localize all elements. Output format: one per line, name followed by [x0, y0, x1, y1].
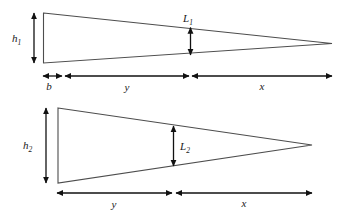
lower-x-label: x	[241, 197, 247, 209]
h1-label: h1	[12, 32, 21, 47]
b-label: b	[46, 80, 52, 92]
figure-container: h1 L1 b y x h2	[0, 0, 342, 215]
lower-diagram: h2 L2 y x	[23, 108, 312, 210]
upper-diagram: h1 L1 b y x	[12, 12, 332, 93]
upper-y-label: y	[124, 81, 130, 93]
diagram-canvas: h1 L1 b y x h2	[0, 0, 342, 215]
L2-label: L2	[179, 140, 190, 155]
h2-label: h2	[23, 139, 33, 154]
upper-x-label: x	[259, 80, 265, 92]
lower-y-label: y	[111, 198, 117, 210]
L1-label: L1	[182, 12, 193, 27]
